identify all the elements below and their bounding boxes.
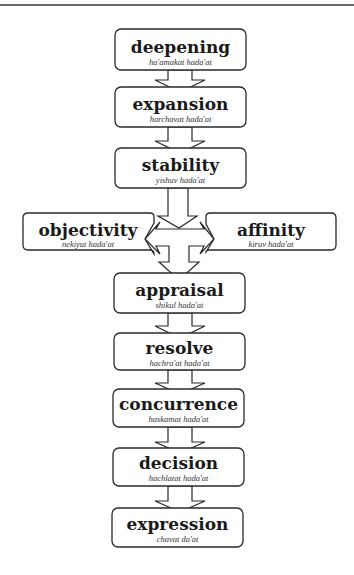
flow-diagram: deepening ha'amakat hada'at expansion ha… — [0, 0, 354, 575]
node-stability: stability yishuv hada'at — [115, 148, 246, 188]
node-subtitle: hachlatat hada'at — [149, 473, 209, 483]
four-way-arrow-icon — [145, 188, 214, 280]
node-subtitle: ha'amakat hada'at — [149, 57, 213, 67]
node-title: deepening — [131, 37, 230, 57]
node-expansion: expansion harchavat hada'at — [115, 87, 246, 127]
node-title: concurrence — [119, 394, 238, 414]
node-concurrence: concurrence haskamat hada'at — [113, 389, 244, 427]
node-subtitle: harchavat hada'at — [150, 114, 212, 124]
node-affinity: affinity kiruv hada'at — [206, 213, 336, 252]
node-decision: decision hachlatat hada'at — [113, 448, 244, 486]
node-objectivity: objectivity nekiyut hada'at — [23, 213, 154, 254]
node-title: decision — [139, 453, 218, 473]
node-title: stability — [142, 155, 221, 175]
node-title: affinity — [237, 220, 306, 240]
node-subtitle: kiruv hada'at — [248, 239, 294, 249]
node-resolve: resolve hachra'at hada'at — [114, 333, 245, 370]
node-expression: expression chavat da'at — [112, 508, 243, 547]
node-deepening: deepening ha'amakat hada'at — [115, 29, 246, 70]
node-subtitle: nekiyut hada'at — [62, 239, 115, 249]
node-title: expression — [127, 514, 229, 534]
node-title: appraisal — [135, 280, 224, 300]
node-title: objectivity — [39, 220, 139, 240]
node-subtitle: hachra'at hada'at — [149, 358, 210, 368]
node-subtitle: haskamat hada'at — [148, 414, 209, 424]
node-title: resolve — [146, 338, 214, 358]
node-appraisal: appraisal shikul hada'at — [114, 273, 245, 313]
node-title: expansion — [133, 94, 229, 114]
node-subtitle: chavat da'at — [157, 534, 199, 544]
node-subtitle: yishuv hada'at — [155, 175, 206, 185]
node-subtitle: shikul hada'at — [156, 300, 204, 310]
